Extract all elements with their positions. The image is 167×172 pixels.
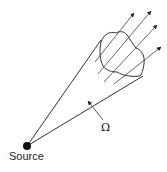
source-label: Source [9, 150, 44, 162]
ray-arrow [114, 47, 161, 84]
ray-arrow [98, 11, 151, 74]
rays [95, 11, 161, 84]
ray-arrow [104, 25, 157, 82]
cone-edge-lower [27, 76, 143, 146]
source-point [23, 142, 31, 150]
solid-angle-label: Ω [101, 121, 110, 134]
cone-edge-upper [27, 40, 101, 146]
omega-pointer-arrow [88, 101, 103, 120]
solid-angle-diagram [0, 0, 167, 172]
cross-section-cloud [100, 32, 144, 77]
